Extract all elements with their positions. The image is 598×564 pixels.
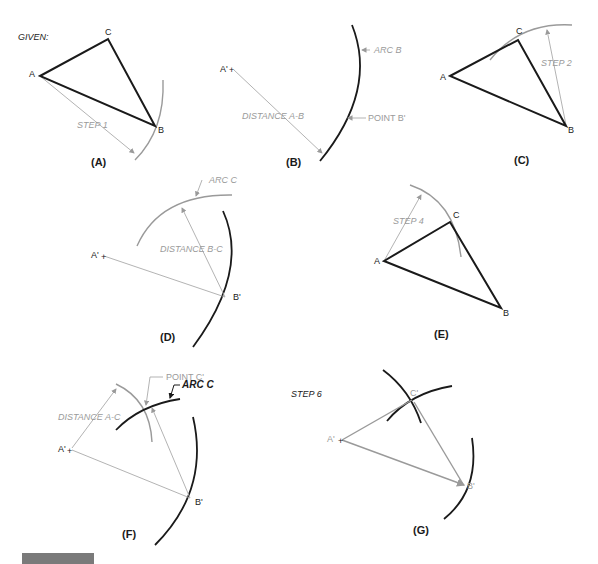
a-to-b-dotted-line (104, 256, 225, 297)
caption-f: (F) (122, 528, 136, 540)
arc-c-label: ARC C (208, 175, 238, 185)
point-c-prime-label-g: C' (410, 388, 418, 398)
panel-b: A' + ARC B POINT B' DISTANCE A-B (B) (220, 25, 406, 168)
panel-d: A' + B' ARC C DISTANCE B-C (D) (91, 175, 241, 347)
distance-ab-label: DISTANCE A-B (242, 111, 304, 121)
caption-a: (A) (91, 156, 107, 168)
vertex-a-label: A (29, 69, 35, 79)
side-a-b-g (342, 440, 464, 485)
step-6-label: STEP 6 (291, 389, 322, 399)
triangle-abc-e (384, 222, 501, 308)
triangle-abc-c (450, 40, 566, 126)
panel-f: A' + B' POINT C' ARC C DISTANCE A-C (F) (58, 372, 214, 545)
vertex-b-label: B (158, 125, 164, 135)
distance-bc-label: DISTANCE B-C (160, 244, 223, 254)
arc-from-a-prime (116, 384, 152, 442)
point-c-leader (146, 377, 163, 405)
side-a-c-g (342, 400, 412, 440)
arc-c-g (387, 386, 452, 421)
vertex-c-label-c: C (516, 26, 523, 36)
side-c-b-g (414, 402, 463, 484)
caption-d: (D) (160, 331, 176, 343)
panel-c: A C B STEP 2 (C) (440, 25, 574, 166)
caption-e: (E) (434, 328, 449, 340)
given-label: GIVEN: (18, 32, 49, 42)
vertex-b-label-c: B (568, 125, 574, 135)
arc-c-leader (196, 180, 202, 196)
point-b-prime-label-g: B' (467, 481, 475, 491)
figure-footer-text (104, 552, 598, 564)
point-a-prime-label-g: A' (327, 434, 335, 444)
arc-b (320, 25, 360, 161)
triangle-construction-diagram: GIVEN: A C B STEP 1 (A) A' + ARC B POINT… (0, 0, 598, 564)
triangle-abc (40, 39, 155, 126)
caption-c: (C) (514, 154, 530, 166)
construction-arc-c (490, 25, 572, 60)
step-1-arrow (40, 76, 134, 153)
vertex-a-label-e: A (374, 256, 380, 266)
arc-b-g (444, 438, 473, 519)
figure-footer-bar (22, 553, 94, 564)
panel-a: GIVEN: A C B STEP 1 (A) (18, 27, 164, 168)
point-a-prime-label: A' (220, 64, 228, 74)
arc-c-gray (137, 195, 232, 246)
step-2-label: STEP 2 (541, 58, 572, 68)
point-a-prime-label-d: A' (91, 250, 99, 260)
point-b-prime-label: POINT B' (368, 113, 406, 123)
point-a-prime-marker-g: + (338, 436, 343, 446)
arc-b-label: ARC B (373, 45, 402, 55)
step-4-label: STEP 4 (393, 216, 424, 226)
panel-g: STEP 6 A' + C' B' (G) (291, 370, 475, 536)
caption-g: (G) (413, 524, 429, 536)
arc-c-label-f: ARC C (181, 379, 214, 390)
vertex-b-label-e: B (503, 308, 509, 318)
vertex-c-label-e: C (453, 210, 460, 220)
point-a-prime-label-f: A' (58, 444, 66, 454)
step-1-label: STEP 1 (77, 120, 108, 130)
point-b-prime-label-f: B' (195, 497, 203, 507)
point-a-prime-marker-f: + (67, 446, 72, 456)
point-a-prime-marker: + (229, 65, 234, 75)
arc-b-d (193, 211, 232, 347)
vertex-c-label: C (105, 27, 112, 37)
panel-e: A C B STEP 4 (E) (374, 185, 509, 340)
point-b-prime-label-d: B' (233, 292, 241, 302)
distance-ac-label: DISTANCE A-C (58, 412, 121, 422)
caption-b: (B) (286, 156, 302, 168)
arc-c-leader-f (170, 385, 180, 398)
arc-c-f (116, 399, 180, 430)
point-a-prime-marker-d: + (101, 252, 106, 262)
arc-b-f (155, 417, 197, 545)
vertex-a-label-c: A (440, 72, 446, 82)
